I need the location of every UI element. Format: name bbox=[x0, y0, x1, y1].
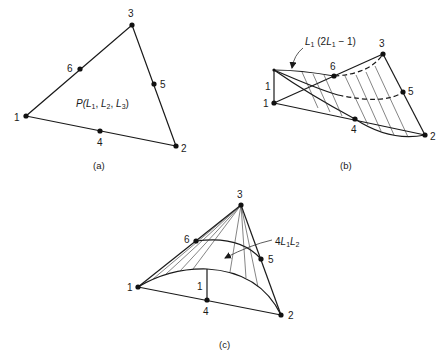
panel-c: 1 2 3 4 5 6 1 4L1L2 (c) bbox=[127, 189, 300, 350]
base-edge-1-2 bbox=[138, 287, 281, 315]
label-arrow bbox=[292, 48, 303, 68]
node-6-dot bbox=[77, 66, 82, 71]
height-label: 1 bbox=[265, 81, 271, 92]
node-2-dot bbox=[173, 143, 178, 148]
surface-curve-to-6 bbox=[274, 70, 334, 76]
node-1-label: 1 bbox=[14, 112, 20, 123]
node-5-dot bbox=[258, 256, 263, 261]
height-label: 1 bbox=[197, 281, 203, 292]
node-5-label: 5 bbox=[160, 79, 166, 90]
node-1-dot bbox=[135, 284, 140, 289]
panel-a: 1 2 3 4 5 6 P(L1, L2, L3) (a) bbox=[14, 8, 187, 171]
node-5-dot bbox=[151, 81, 156, 86]
node-2-dot bbox=[422, 132, 427, 137]
node-3-dot bbox=[380, 51, 385, 56]
base-edge-1-2 bbox=[274, 103, 425, 135]
panel-b: 1 1 2 3 4 5 6 L1 (2L1 − 1) (b) bbox=[263, 36, 436, 171]
point-coordinates-label: P(L1, L2, L3) bbox=[76, 98, 129, 110]
surface-curve-to-5-hidden bbox=[338, 92, 403, 99]
node-1-label: 1 bbox=[263, 98, 269, 109]
node-1-dot bbox=[23, 113, 28, 118]
shape-function-label-n4: 4L1L2 bbox=[275, 236, 300, 248]
node-6-label: 6 bbox=[67, 63, 73, 74]
node-2-label: 2 bbox=[430, 131, 436, 142]
node-6-dot bbox=[331, 73, 336, 78]
node-2-label: 2 bbox=[288, 310, 294, 321]
node-6-label: 6 bbox=[184, 234, 190, 245]
node-5-label: 5 bbox=[268, 254, 274, 265]
node-2-label: 2 bbox=[181, 143, 187, 154]
node-6-dot bbox=[193, 238, 198, 243]
surface-hatching bbox=[153, 205, 258, 287]
node-4-label: 4 bbox=[97, 137, 103, 148]
node-5-label: 5 bbox=[408, 86, 414, 97]
node-1-label: 1 bbox=[127, 282, 133, 293]
node-4-dot bbox=[97, 128, 102, 133]
caption-b: (b) bbox=[340, 160, 352, 171]
node-2-dot bbox=[278, 312, 283, 317]
base-edge-3-2 bbox=[383, 54, 425, 135]
node-4-dot bbox=[204, 297, 209, 302]
shape-function-figure: 1 2 3 4 5 6 P(L1, L2, L3) (a) bbox=[0, 0, 446, 355]
surface-curve-1-4-2 bbox=[138, 269, 281, 315]
caption-c: (c) bbox=[219, 339, 230, 350]
shape-function-label-n1: L1 (2L1 − 1) bbox=[305, 36, 356, 48]
node-4-dot bbox=[352, 116, 357, 121]
base-edge-1-3 bbox=[138, 205, 241, 287]
nodes bbox=[23, 22, 178, 148]
node-5-dot bbox=[400, 89, 405, 94]
node-3-dot bbox=[129, 22, 134, 27]
node-3-dot bbox=[238, 202, 243, 207]
node-3-label: 3 bbox=[128, 8, 134, 19]
node-1-dot bbox=[271, 100, 276, 105]
caption-a: (a) bbox=[93, 160, 105, 171]
node-4-label: 4 bbox=[351, 124, 357, 135]
nodes bbox=[135, 202, 283, 317]
base-edge-1-3 bbox=[274, 54, 383, 103]
node-3-label: 3 bbox=[379, 38, 385, 49]
node-peak-dot bbox=[272, 68, 275, 71]
node-6-label: 6 bbox=[330, 61, 336, 72]
node-3-label: 3 bbox=[237, 189, 243, 200]
node-4-label: 4 bbox=[203, 306, 209, 317]
